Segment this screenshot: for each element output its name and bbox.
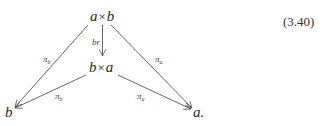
equation-number: (3.40) (283, 15, 314, 28)
label-pi-b-lower: πb (55, 92, 63, 102)
arrow-mid-right (118, 75, 191, 109)
node-b-times-a: b×a (89, 60, 113, 75)
node-a-times-b-left: a (90, 8, 98, 24)
label-pi-a-lower: πa (137, 92, 145, 102)
arrow-top-right (111, 25, 192, 108)
arrow-top-left (15, 25, 88, 107)
node-b-times-a-right: a (106, 59, 114, 75)
times-operator: × (99, 9, 106, 24)
node-b-times-a-left: b (89, 59, 97, 75)
node-a-times-b: a×b (90, 9, 114, 24)
arrow-mid-left (15, 75, 86, 108)
times-operator: × (98, 60, 105, 75)
label-pi-a-upper: πa (155, 55, 163, 65)
node-a-times-b-right: b (107, 8, 115, 24)
label-pi-b-upper: πb (43, 55, 51, 65)
node-a: a. (193, 105, 204, 120)
label-br: br (92, 38, 100, 47)
node-b: b (5, 105, 13, 120)
